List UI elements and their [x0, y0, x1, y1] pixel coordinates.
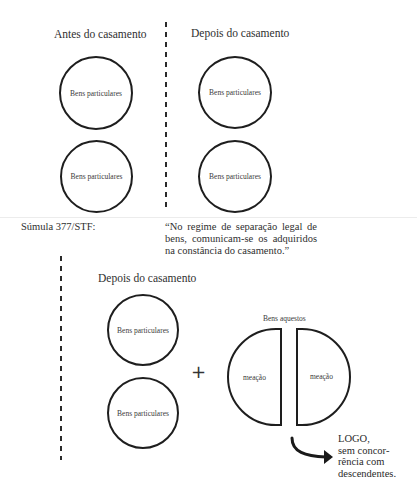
meacao-right-label: meação — [310, 372, 333, 381]
conclusion-line-4: descendentes. — [338, 468, 417, 480]
conclusion-line-2: sem concor- — [338, 445, 417, 457]
conclusion-line-3: rência com — [338, 456, 417, 468]
meacao-halves — [0, 0, 417, 489]
conclusion-line-1: LOGO, — [338, 433, 417, 445]
arrow-head-icon — [324, 450, 333, 464]
conclusion-text: LOGO, sem concor- rência com descendente… — [338, 433, 417, 479]
curved-arrow-icon — [292, 438, 326, 457]
meacao-left-label: meação — [243, 373, 266, 382]
